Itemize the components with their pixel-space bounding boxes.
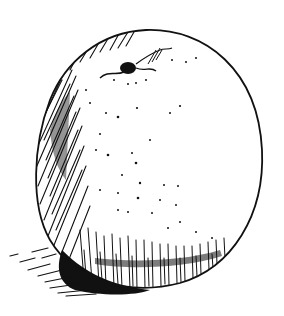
stem-end — [100, 48, 172, 78]
illustration: Pen-and-ink illustration of an orange — [0, 0, 284, 316]
peel-dots — [85, 57, 213, 239]
orange-drawing — [0, 0, 284, 316]
